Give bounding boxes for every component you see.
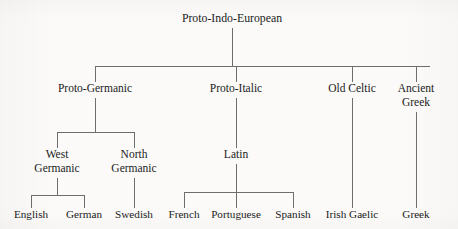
node-spanish: Spanish	[275, 208, 311, 220]
node-old-celtic: Old Celtic	[328, 82, 376, 94]
node-english: English	[14, 208, 49, 220]
edge-group-root-to-level1	[95, 28, 430, 82]
tree-svg-canvas: Proto-Indo-European Proto-Germanic Proto…	[0, 0, 458, 229]
language-family-tree-diagram: Proto-Indo-European Proto-Germanic Proto…	[0, 0, 458, 229]
node-proto-italic: Proto-Italic	[210, 82, 262, 94]
node-french: French	[168, 208, 199, 220]
node-proto-germanic: Proto-Germanic	[58, 82, 132, 94]
node-ancient-greek-line1: Ancient	[398, 82, 435, 94]
node-portuguese: Portuguese	[211, 208, 261, 220]
node-latin: Latin	[224, 148, 249, 160]
edge-group-proto-germanic-to-level2	[57, 98, 134, 148]
node-german: German	[66, 208, 102, 220]
node-north-germanic-line2: Germanic	[111, 162, 156, 174]
node-ancient-greek-line2: Greek	[402, 96, 430, 108]
node-swedish: Swedish	[115, 208, 153, 220]
node-irish-gaelic: Irish Gaelic	[326, 208, 379, 220]
node-proto-indo-european: Proto-Indo-European	[182, 11, 282, 25]
node-greek: Greek	[402, 208, 430, 220]
edge-group-latin-to-leaves	[184, 164, 293, 208]
node-west-germanic-line2: Germanic	[34, 162, 79, 174]
node-west-germanic-line1: West	[46, 148, 70, 160]
edge-group-west-germanic-to-leaves	[31, 178, 84, 208]
node-north-germanic-line1: North	[121, 148, 148, 160]
